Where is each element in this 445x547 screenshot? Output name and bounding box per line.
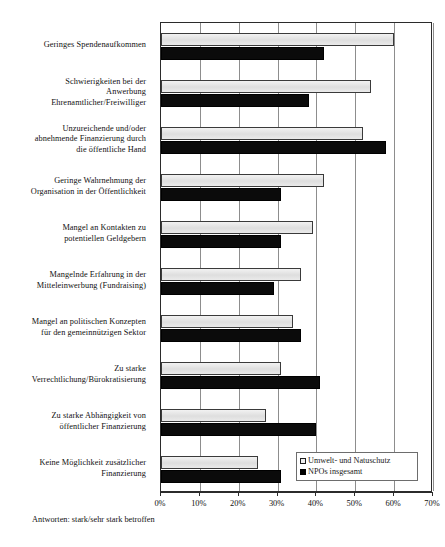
gridline-70 — [433, 23, 434, 491]
x-tick-20 — [238, 492, 239, 496]
legend-swatch-icon — [300, 469, 306, 475]
bar-npos — [161, 282, 274, 296]
legend: Umwelt- und NatuschutzNPOs insgesamt — [296, 452, 418, 481]
x-axis-line — [160, 492, 432, 493]
bar-umwelt — [161, 456, 258, 470]
bar-npos — [161, 376, 320, 390]
bar-group — [161, 33, 433, 61]
category-label-line: Schwierigkeiten bei der — [0, 77, 146, 87]
x-tick-label: 20% — [223, 499, 253, 508]
category-label-line: Organisation in der Öffentlichkeit — [0, 187, 146, 197]
bar-group — [161, 315, 433, 343]
category-label: Mangel an politischen Konzeptenfür den g… — [0, 317, 146, 338]
bar-group — [161, 127, 433, 155]
x-tick-10 — [199, 492, 200, 496]
category-label-line: öffentlicher Finanzierung — [0, 422, 146, 432]
category-label-line: Zu starke Abhängigkeit von — [0, 411, 146, 421]
category-label: Unzureichende und/oderabnehmende Finanzi… — [0, 124, 146, 155]
category-label-line: Anwerbung — [0, 87, 146, 97]
x-tick-label: 60% — [378, 499, 408, 508]
bar-npos — [161, 329, 301, 343]
category-label-line: die öffentliche Hand — [0, 145, 146, 155]
bar-umwelt — [161, 362, 281, 376]
x-tick-label: 30% — [262, 499, 292, 508]
bar-umwelt — [161, 174, 324, 188]
category-label-line: Geringes Spendenaufkommen — [0, 40, 146, 50]
bar-umwelt — [161, 315, 293, 329]
category-label-line: Unzureichende und/oder — [0, 124, 146, 134]
x-tick-40 — [315, 492, 316, 496]
bar-group — [161, 174, 433, 202]
category-label-line: Keine Möglichkeit zusätzlicher — [0, 458, 146, 468]
category-label-line: Mitteleinwerbung (Fundraising) — [0, 281, 146, 291]
category-label-line: Geringe Wahrnehmung der — [0, 176, 146, 186]
legend-swatch-icon — [300, 458, 306, 464]
bar-umwelt — [161, 33, 394, 47]
category-label: Zu starke Abhängigkeit vonöffentlicher F… — [0, 411, 146, 432]
legend-label: Umwelt- und Natuschutz — [308, 455, 390, 466]
bar-npos — [161, 423, 316, 437]
x-tick-label: 0% — [145, 499, 175, 508]
category-label-line: Zu starke — [0, 364, 146, 374]
footnote: Antworten: stark/sehr stark betroffen — [32, 515, 155, 524]
category-label-line: Ehrenamtlicher/Freiwilliger — [0, 98, 146, 108]
x-tick-label: 10% — [184, 499, 214, 508]
bar-umwelt — [161, 80, 371, 94]
bar-chart: Geringes SpendenaufkommenSchwierigkeiten… — [0, 0, 445, 547]
bar-group — [161, 80, 433, 108]
bar-umwelt — [161, 221, 313, 235]
legend-item: Umwelt- und Natuschutz — [300, 455, 414, 466]
category-label: Mangelnde Erfahrung in derMitteleinwerbu… — [0, 270, 146, 291]
category-label: Zu starkeVerrechtlichung/Bürokratisierun… — [0, 364, 146, 385]
category-label-line: potentiellen Geldgebern — [0, 234, 146, 244]
bar-group — [161, 362, 433, 390]
bar-npos — [161, 235, 281, 249]
bar-group — [161, 409, 433, 437]
legend-label: NPOs insgesamt — [308, 466, 362, 477]
bar-npos — [161, 141, 386, 155]
bar-npos — [161, 47, 324, 61]
bar-npos — [161, 94, 309, 108]
category-label-line: für den gemeinnützigen Sektor — [0, 328, 146, 338]
bar-umwelt — [161, 409, 266, 423]
legend-item: NPOs insgesamt — [300, 466, 414, 477]
x-tick-label: 40% — [300, 499, 330, 508]
category-label: Schwierigkeiten bei derAnwerbungEhrenamt… — [0, 77, 146, 108]
bar-npos — [161, 470, 281, 484]
bar-group — [161, 268, 433, 296]
x-tick-label: 70% — [417, 499, 445, 508]
category-axis-labels: Geringes SpendenaufkommenSchwierigkeiten… — [0, 22, 152, 492]
category-label-line: Finanzierung — [0, 469, 146, 479]
bar-group — [161, 221, 433, 249]
x-tick-50 — [354, 492, 355, 496]
category-label: Keine Möglichkeit zusätzlicherFinanzieru… — [0, 458, 146, 479]
category-label: Geringes Spendenaufkommen — [0, 40, 146, 50]
x-tick-label: 50% — [339, 499, 369, 508]
category-label: Mangel an Kontakten zupotentiellen Geldg… — [0, 223, 146, 244]
plot-area — [160, 22, 432, 492]
category-label: Geringe Wahrnehmung derOrganisation in d… — [0, 176, 146, 197]
category-label-line: Verrechtlichung/Bürokratisierung — [0, 375, 146, 385]
category-label-line: abnehmende Finanzierung durch — [0, 134, 146, 144]
category-label-line: Mangelnde Erfahrung in der — [0, 270, 146, 280]
category-label-line: Mangel an Kontakten zu — [0, 223, 146, 233]
x-tick-0 — [160, 492, 161, 496]
x-tick-30 — [277, 492, 278, 496]
bar-umwelt — [161, 268, 301, 282]
x-tick-70 — [432, 492, 433, 496]
bar-umwelt — [161, 127, 363, 141]
bar-npos — [161, 188, 281, 202]
x-tick-60 — [393, 492, 394, 496]
category-label-line: Mangel an politischen Konzepten — [0, 317, 146, 327]
